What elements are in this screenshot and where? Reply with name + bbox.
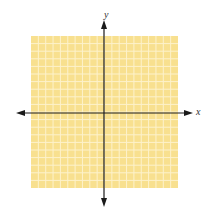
- x-axis-right-arrow-icon: [184, 110, 193, 116]
- y-axis-label: y: [104, 10, 108, 20]
- x-axis-label: x: [196, 107, 200, 117]
- x-axis-left-arrow-icon: [16, 110, 25, 116]
- y-axis-down-arrow-icon: [101, 198, 107, 207]
- y-axis-up-arrow-icon: [101, 20, 107, 29]
- coordinate-plane: [0, 0, 211, 214]
